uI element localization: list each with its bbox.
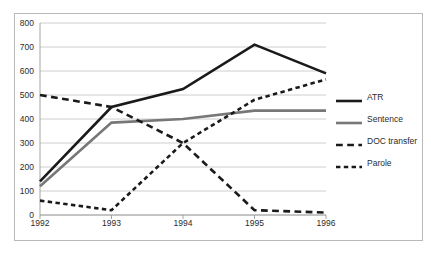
x-axis-labels: 19921993199419951996	[40, 219, 326, 235]
legend-item-label: DOC transfer	[367, 137, 417, 146]
legend-item-label: Sentence	[367, 115, 403, 124]
legend-item[interactable]: Sentence	[336, 110, 422, 128]
y-axis-tick-label: 500	[20, 91, 34, 100]
y-axis-tick-label: 300	[20, 139, 34, 148]
legend-item[interactable]: ATR	[336, 88, 422, 106]
plot-inner	[40, 23, 326, 215]
chart-container: 0100200300400500600700800 19921993199419…	[0, 0, 431, 254]
x-axis-tick-label: 1995	[245, 219, 264, 228]
series-line-atr	[40, 45, 326, 182]
x-axis-tick-label: 1996	[317, 219, 336, 228]
series-line-doc-transfer	[40, 95, 326, 213]
y-axis-tick-label: 200	[20, 163, 34, 172]
x-axis-tick-label: 1993	[102, 219, 121, 228]
legend-swatch-parole	[336, 158, 362, 168]
legend-item[interactable]: DOC transfer	[336, 132, 422, 150]
legend-swatch-sentence	[336, 114, 362, 124]
y-axis-tick-label: 100	[20, 187, 34, 196]
y-axis-tick-label: 800	[20, 19, 34, 28]
chart-legend: ATRSentenceDOC transferParole	[336, 88, 422, 176]
legend-item[interactable]: Parole	[336, 154, 422, 172]
chart-plot-svg	[40, 23, 326, 215]
y-axis-tick-label: 600	[20, 67, 34, 76]
y-axis-labels: 0100200300400500600700800	[0, 23, 38, 215]
legend-item-label: Parole	[367, 159, 392, 168]
y-axis-tick-label: 400	[20, 115, 34, 124]
plot-area	[40, 23, 326, 215]
x-axis-tick-label: 1994	[174, 219, 193, 228]
y-axis-tick-label: 700	[20, 43, 34, 52]
series-line-sentence	[40, 111, 326, 187]
legend-swatch-atr	[336, 92, 362, 102]
x-axis-tick-label: 1992	[31, 219, 50, 228]
legend-item-label: ATR	[367, 93, 383, 102]
legend-swatch-doc-transfer	[336, 136, 362, 146]
